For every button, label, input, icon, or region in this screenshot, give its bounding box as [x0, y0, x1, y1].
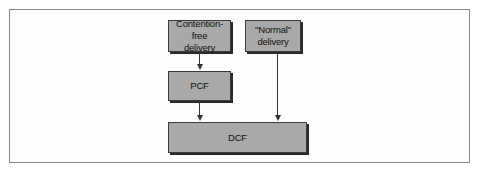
- normal-label-line1: "Normal": [255, 24, 291, 36]
- contention-free-delivery-box: Contention-free delivery: [168, 20, 231, 52]
- contention-free-label-line1: Contention-free: [169, 18, 230, 42]
- normal-delivery-box: "Normal" delivery: [245, 20, 301, 52]
- normal-label-line2: delivery: [255, 36, 291, 48]
- pcf-label: PCF: [190, 80, 208, 92]
- arrow-contention-free-to-pcf-head: [197, 64, 203, 70]
- dcf-box: DCF: [168, 122, 307, 153]
- arrow-normal-to-dcf-head: [275, 115, 281, 121]
- pcf-box: PCF: [168, 71, 231, 101]
- dcf-label: DCF: [228, 132, 247, 144]
- arrow-pcf-to-dcf-line: [199, 102, 200, 115]
- arrow-pcf-to-dcf-head: [197, 115, 203, 121]
- arrow-normal-to-dcf-line: [277, 53, 278, 115]
